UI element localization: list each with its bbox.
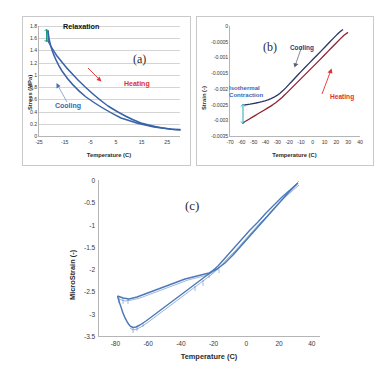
y-tick-label: 1.2 — [30, 60, 39, 66]
x-tick-label: -5 — [88, 139, 92, 145]
x-tick-label: -15 — [61, 139, 68, 145]
y-tick-label: -0.002 — [214, 86, 230, 92]
y-tick-label: 1.8 — [30, 23, 39, 29]
x-tick-label: -40 — [176, 340, 185, 347]
y-tick-label: 1.6 — [30, 35, 39, 41]
y-tick-label: -0.0005 — [211, 39, 230, 45]
x-tick-label: -30 — [274, 139, 281, 145]
y-tick-label: -0.003 — [214, 117, 230, 123]
x-tick-label: 25 — [164, 139, 170, 145]
x-tick-label: 5 — [114, 139, 117, 145]
x-tick-label: 10 — [322, 139, 328, 145]
annotation-cooling-a: Cooling — [55, 102, 81, 109]
x-tick-label: 40 — [357, 139, 363, 145]
panel-b-curves — [230, 26, 361, 137]
cooling-arrow-icon — [57, 83, 68, 102]
x-tick-label: 30 — [345, 139, 351, 145]
curve-heating-c — [118, 184, 298, 299]
panel-b-y-axis-label: Strain (-) — [201, 86, 207, 110]
annotation-heating-a: Heating — [124, 80, 150, 87]
panel-a-y-axis-label: Stress (MPa) — [27, 75, 33, 110]
panel-c-y-axis-label: MicroStrain (-) — [68, 250, 77, 300]
y-tick-label: -2 — [89, 266, 99, 273]
curve-cooling-a — [48, 31, 180, 130]
panel-c-curves — [99, 180, 321, 337]
panel-c-plot-area: 0 -0.5 -1 -1.5 -2 -2.5 -3 -3.5 -80 -60 -… — [98, 180, 320, 337]
curve-heating-a — [48, 41, 180, 130]
y-tick-label: -0.0015 — [211, 70, 230, 76]
panel-c-tag: (c) — [185, 198, 199, 214]
annotation-isothermal-contraction-b: Isothermal Contraction — [229, 85, 263, 99]
curve-heating-c-repeat — [119, 181, 300, 301]
y-tick-label: -3 — [89, 310, 99, 317]
annotation-cooling-b: Cooling — [290, 44, 314, 51]
y-tick-label: 1.4 — [30, 47, 39, 53]
isothermal-line-2: Contraction — [229, 91, 263, 98]
x-tick-label: -60 — [238, 139, 245, 145]
y-tick-label: 0.2 — [30, 121, 39, 127]
curve-cooling-c — [130, 183, 298, 328]
x-tick-label: 40 — [308, 340, 315, 347]
y-tick-label: -2.5 — [84, 288, 99, 295]
panel-c-x-axis-label: Temperature (C) — [98, 352, 320, 361]
x-tick-label: -20 — [285, 139, 292, 145]
x-tick-label: -20 — [209, 340, 218, 347]
x-tick-label: -10 — [297, 139, 304, 145]
curve-cooling-c-repeat — [130, 185, 299, 330]
x-tick-label: -70 — [226, 139, 233, 145]
x-tick-label: -50 — [250, 139, 257, 145]
panel-a-curves — [39, 26, 181, 137]
x-tick-label: -40 — [262, 139, 269, 145]
y-tick-label: -0.0025 — [211, 102, 230, 108]
heating-arrow-icon — [88, 68, 102, 82]
annotation-heating-b: Heating — [330, 93, 354, 100]
y-tick-label: -3.5 — [84, 333, 99, 340]
panel-b-x-axis-label: Temperature (C) — [229, 152, 360, 158]
y-tick-label: 0 — [91, 177, 99, 184]
x-tick-label: 20 — [334, 139, 340, 145]
y-tick-label: -1 — [89, 221, 99, 228]
panel-a-plot-area: 1.8 1.6 1.4 1.2 1 0.8 0.6 0.4 0.2 0 -25 … — [38, 26, 180, 137]
x-tick-label: -25 — [35, 139, 42, 145]
x-tick-label: -60 — [143, 340, 152, 347]
panel-a-x-axis-label: Temperature (C) — [38, 152, 180, 158]
figure-canvas: 1.8 1.6 1.4 1.2 1 0.8 0.6 0.4 0.2 0 -25 … — [0, 0, 380, 381]
y-tick-label: -0.001 — [214, 54, 230, 60]
x-tick-label: 15 — [139, 139, 145, 145]
panel-a-tag: (a) — [133, 52, 146, 67]
annotation-relaxation-a: Relaxation — [63, 22, 99, 31]
panel-b-tag: (b) — [263, 40, 277, 55]
heating-arrow-icon-b — [322, 69, 333, 95]
x-tick-label: -80 — [111, 340, 120, 347]
x-tick-label: 0 — [245, 340, 249, 347]
y-tick-label: -0.5 — [84, 199, 99, 206]
x-tick-label: 0 — [311, 139, 314, 145]
y-tick-label: -1.5 — [84, 243, 99, 250]
panel-b-plot-area: 0 -0.0005 -0.001 -0.0015 -0.002 -0.0025 … — [229, 26, 360, 137]
x-tick-label: 20 — [275, 340, 282, 347]
isothermal-contraction-arrow-icon — [241, 104, 245, 124]
